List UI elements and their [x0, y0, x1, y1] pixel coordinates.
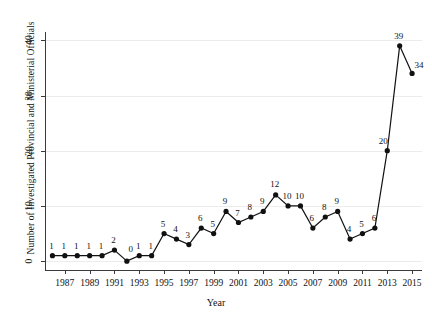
x-tick-mark — [139, 270, 140, 274]
x-tick-mark — [387, 270, 388, 274]
data-point-marker — [211, 231, 216, 236]
data-point-marker — [186, 242, 191, 247]
data-point-label: 39 — [388, 32, 410, 41]
x-axis-line — [45, 270, 422, 271]
data-point-marker — [372, 225, 377, 230]
x-tick-mark — [338, 270, 339, 274]
data-point-label: 6 — [301, 214, 323, 223]
x-tick-mark — [412, 270, 413, 274]
data-point-marker — [360, 231, 365, 236]
x-tick-mark — [214, 270, 215, 274]
x-tick-mark — [263, 270, 264, 274]
x-axis-title: Year — [0, 297, 432, 308]
data-point-marker — [62, 253, 67, 258]
data-point-label: 3 — [177, 231, 199, 240]
data-point-marker — [323, 214, 328, 219]
y-tick-label: 30 — [21, 90, 37, 102]
x-tick-mark — [288, 270, 289, 274]
x-tick-mark — [313, 270, 314, 274]
data-point-label: 9 — [326, 197, 348, 206]
data-point-marker — [248, 214, 253, 219]
x-tick-label: 2015 — [395, 278, 429, 288]
data-point-label: 20 — [372, 137, 394, 146]
y-axis-title: Number of Investigated Provincial and Mi… — [26, 13, 36, 263]
data-point-marker — [310, 225, 315, 230]
data-point-marker — [298, 203, 303, 208]
data-series — [45, 32, 422, 270]
y-tick-label: 0 — [21, 255, 37, 267]
data-point-label: 6 — [363, 214, 385, 223]
data-point-marker — [261, 209, 266, 214]
data-point-marker — [112, 248, 117, 253]
data-point-label: 2 — [102, 236, 124, 245]
data-point-marker — [149, 253, 154, 258]
data-point-marker — [347, 236, 352, 241]
x-tick-mark — [362, 270, 363, 274]
x-tick-mark — [238, 270, 239, 274]
data-point-marker — [285, 203, 290, 208]
y-tick-label: 40 — [21, 34, 37, 46]
data-point-label: 10 — [288, 192, 310, 201]
x-tick-mark — [189, 270, 190, 274]
data-point-marker — [236, 220, 241, 225]
data-point-marker — [75, 253, 80, 258]
data-point-marker — [50, 253, 55, 258]
data-point-label: 34 — [408, 61, 430, 70]
y-tick-label: 20 — [21, 145, 37, 157]
x-tick-mark — [65, 270, 66, 274]
data-point-marker — [335, 209, 340, 214]
x-tick-mark — [164, 270, 165, 274]
x-tick-mark — [90, 270, 91, 274]
data-point-label: 9 — [251, 197, 273, 206]
data-point-marker — [124, 259, 129, 264]
data-point-marker — [87, 253, 92, 258]
data-point-marker — [409, 71, 414, 76]
data-point-marker — [385, 148, 390, 153]
data-point-marker — [397, 43, 402, 48]
line-chart: Number of Investigated Provincial and Mi… — [0, 0, 432, 322]
plot-area: 010203040 198719891991199319951997199920… — [45, 32, 422, 270]
data-point-label: 1 — [140, 242, 162, 251]
data-point-label: 5 — [202, 220, 224, 229]
data-point-label: 12 — [264, 180, 286, 189]
x-tick-mark — [114, 270, 115, 274]
data-point-marker — [99, 253, 104, 258]
data-point-label: 9 — [214, 197, 236, 206]
y-tick-label: 10 — [21, 200, 37, 212]
